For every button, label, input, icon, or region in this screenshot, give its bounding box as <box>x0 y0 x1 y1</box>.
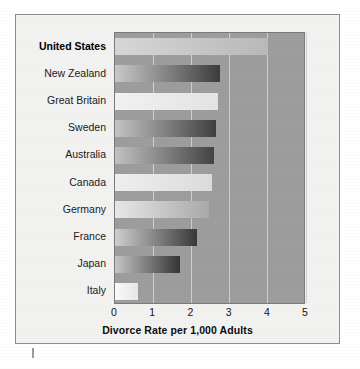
page-margin-tick <box>32 348 34 358</box>
x-axis-title: Divorce Rate per 1,000 Adults <box>15 324 340 336</box>
gridline-5 <box>306 33 307 303</box>
plot-area <box>114 32 305 304</box>
category-label: Canada <box>12 176 106 188</box>
bar <box>115 65 220 82</box>
x-tick-label: 0 <box>104 306 124 318</box>
category-label: France <box>12 230 106 242</box>
chart-figure: United StatesNew ZealandGreat BritainSwe… <box>0 0 360 369</box>
category-label: United States <box>12 40 106 52</box>
category-label: Australia <box>12 148 106 160</box>
category-label: New Zealand <box>12 67 106 79</box>
category-label: Japan <box>12 257 106 269</box>
x-tick-label: 3 <box>219 306 239 318</box>
category-label: Germany <box>12 203 106 215</box>
category-label: Sweden <box>12 121 106 133</box>
x-tick-label: 4 <box>257 306 277 318</box>
bar <box>115 229 197 246</box>
bar <box>115 174 212 191</box>
x-tick-label: 5 <box>295 306 315 318</box>
bar <box>115 38 268 55</box>
bar <box>115 283 138 300</box>
bar <box>115 256 180 273</box>
bar <box>115 93 218 110</box>
x-tick-label: 2 <box>180 306 200 318</box>
category-axis-labels: United StatesNew ZealandGreat BritainSwe… <box>15 32 111 304</box>
bar <box>115 147 214 164</box>
bar-series <box>115 33 304 303</box>
x-axis-tick-labels: 012345 <box>114 306 305 320</box>
x-tick-label: 1 <box>142 306 162 318</box>
category-label: Italy <box>12 284 106 296</box>
bar <box>115 201 209 218</box>
bar <box>115 120 216 137</box>
category-label: Great Britain <box>12 94 106 106</box>
